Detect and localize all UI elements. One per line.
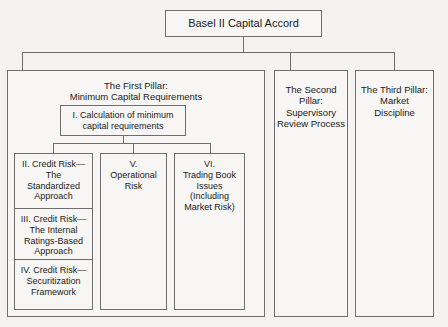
- credit-risk-standardized-line4: Approach: [18, 191, 89, 202]
- pillar-second-line2: Pillar:: [277, 95, 345, 106]
- credit-risk-securitization-line3: Framework: [18, 287, 89, 298]
- node-calculation-of-minimum-capital-requirements[interactable]: I. Calculation of minimum capital requir…: [60, 105, 186, 136]
- trading-book-line2: Trading Book: [175, 170, 244, 181]
- credit-risk-standardized-line2: The: [18, 170, 89, 181]
- credit-risk-securitization-line2: Securitization: [18, 276, 89, 287]
- trading-book-line1: VI.: [175, 159, 244, 170]
- trading-book-line4: (Including: [175, 191, 244, 202]
- connector-drop-trading-book: [210, 143, 211, 153]
- credit-risk-standardized-line1: II. Credit Risk—: [18, 159, 89, 170]
- operational-risk-line1: V.: [101, 159, 166, 170]
- root-node-label: Basel II Capital Accord: [188, 17, 299, 30]
- credit-risk-irb-line3: Ratings-Based: [18, 236, 89, 247]
- pillar-second-label: The Second Pillar: Supervisory Review Pr…: [277, 84, 345, 130]
- credit-risk-securitization-line1: IV. Credit Risk—: [18, 265, 89, 276]
- connector-main-bus: [22, 52, 394, 53]
- calculation-label-line1: I. Calculation of minimum: [72, 110, 173, 121]
- pillar-third-container[interactable]: The Third Pillar: Market Discipline: [355, 70, 434, 317]
- connector-drop-credit-risk: [53, 143, 54, 153]
- operational-risk-line3: Risk: [101, 181, 166, 192]
- pillar-second-line4: Review Process: [277, 118, 345, 129]
- pillar-second-line1: The Second: [277, 84, 345, 95]
- basel-ii-org-chart: Basel II Capital Accord The First Pillar…: [0, 0, 448, 327]
- connector-calc-bus: [53, 143, 210, 144]
- pillar-first-heading-line1: The First Pillar:: [70, 80, 203, 91]
- connector-drop-pillar1: [22, 52, 23, 70]
- pillar-second-container[interactable]: The Second Pillar: Supervisory Review Pr…: [274, 70, 348, 317]
- node-operational-risk[interactable]: V. Operational Risk: [100, 153, 167, 310]
- pillar-third-label: The Third Pillar: Market Discipline: [361, 84, 428, 118]
- pillar-second-line3: Supervisory: [277, 107, 345, 118]
- node-credit-risk-securitization-framework[interactable]: IV. Credit Risk— Securitization Framewor…: [15, 259, 92, 309]
- trading-book-line5: Market Risk): [175, 202, 244, 213]
- connector-drop-pillar2: [290, 52, 291, 70]
- root-node-basel-ii-capital-accord[interactable]: Basel II Capital Accord: [165, 10, 322, 37]
- trading-book-line3: Issues: [175, 181, 244, 192]
- pillar-third-line3: Discipline: [361, 107, 428, 118]
- column-credit-risk[interactable]: II. Credit Risk— The Standardized Approa…: [14, 153, 93, 310]
- credit-risk-irb-line4: Approach: [18, 246, 89, 257]
- trading-book-label: VI. Trading Book Issues (Including Marke…: [175, 159, 244, 213]
- connector-root-stem: [243, 37, 244, 52]
- pillar-first-heading-line2: Minimum Capital Requirements: [70, 91, 203, 102]
- connector-drop-operational-risk: [133, 143, 134, 153]
- credit-risk-irb-line1: III. Credit Risk—: [18, 214, 89, 225]
- node-credit-risk-internal-ratings-based-approach[interactable]: III. Credit Risk— The Internal Ratings-B…: [15, 208, 92, 259]
- operational-risk-line2: Operational: [101, 170, 166, 181]
- connector-drop-pillar3: [394, 52, 395, 70]
- pillar-third-line1: The Third Pillar:: [361, 84, 428, 95]
- pillar-third-line2: Market: [361, 95, 428, 106]
- node-credit-risk-standardized-approach[interactable]: II. Credit Risk— The Standardized Approa…: [15, 154, 92, 208]
- credit-risk-standardized-line3: Standardized: [18, 181, 89, 192]
- credit-risk-irb-line2: The Internal: [18, 225, 89, 236]
- pillar-first-heading: The First Pillar: Minimum Capital Requir…: [70, 80, 203, 103]
- node-trading-book-issues[interactable]: VI. Trading Book Issues (Including Marke…: [174, 153, 245, 310]
- operational-risk-label: V. Operational Risk: [101, 159, 166, 191]
- connector-calc-stem: [123, 136, 124, 143]
- calculation-label-line2: capital requirements: [82, 121, 163, 132]
